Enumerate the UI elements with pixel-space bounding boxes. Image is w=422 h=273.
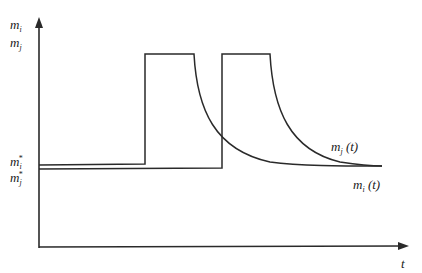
curve-label-m-i-t: mi (t)	[353, 178, 380, 194]
y-axis-label-m-j: mj	[10, 36, 22, 52]
baseline-label-m-i-star: mi*	[10, 155, 23, 171]
baseline-label-m-j-star: mj*	[10, 171, 23, 187]
x-axis	[39, 246, 402, 247]
x-axis-arrow-icon	[398, 242, 409, 250]
curve-label-m-j-t: mj (t)	[331, 140, 358, 156]
y-axis-arrow-icon	[35, 17, 43, 28]
plot-svg	[0, 0, 422, 273]
x-axis-label-t: t	[401, 257, 405, 270]
y-axis-label-m-i: mi	[10, 18, 22, 34]
diagram-canvas: mi mj mi* mj* mj (t) mi (t) t	[0, 0, 422, 273]
